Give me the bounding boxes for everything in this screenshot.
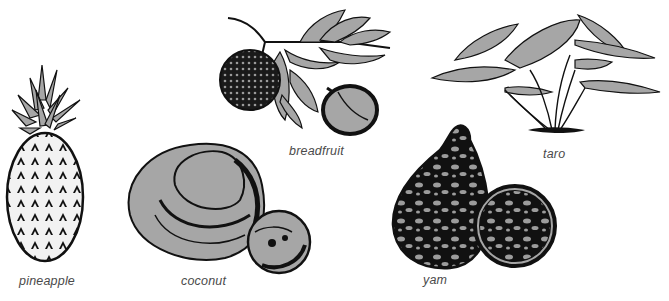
coconut-label: coconut: [181, 274, 226, 288]
pineapple-drawing: [7, 65, 83, 261]
breadfruit-drawing: [220, 10, 390, 134]
breadfruit-label: breadfruit: [289, 144, 344, 158]
taro-label: taro: [543, 147, 565, 161]
yam-drawing: [393, 126, 556, 269]
coconut-drawing: [129, 144, 310, 273]
yam-label: yam: [423, 273, 447, 287]
taro-drawing: [432, 15, 660, 133]
pineapple-label: pineapple: [19, 274, 75, 288]
food-plants-illustration: pineapple coconut breadfruit yam taro: [0, 0, 669, 301]
